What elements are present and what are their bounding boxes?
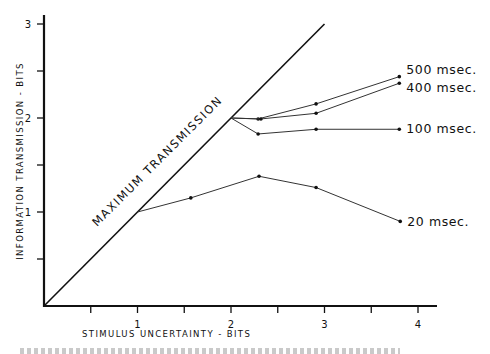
- series-label: 400 msec.: [406, 80, 476, 95]
- data-point: [259, 117, 263, 121]
- series-line: [138, 176, 401, 221]
- x-tick-label: 3: [321, 319, 327, 330]
- series-line: [231, 118, 399, 134]
- maximum-transmission-label: MAXIMUM TRANSMISSION: [89, 93, 225, 229]
- axes: 1234123STIMULUS UNCERTAINTY - BITSINFORM…: [15, 15, 437, 339]
- series-20-msec: [138, 174, 403, 223]
- data-point: [256, 132, 260, 136]
- series-400-msec: [231, 81, 401, 120]
- data-point: [314, 186, 318, 190]
- data-point: [314, 112, 318, 116]
- x-axis-title: STIMULUS UNCERTAINTY - BITS: [82, 329, 251, 339]
- data-point: [257, 174, 261, 178]
- maximum-transmission-line: [44, 24, 325, 306]
- data-point: [398, 220, 402, 224]
- series-label: 20 msec.: [407, 214, 469, 229]
- y-tick-label: 3: [25, 19, 31, 30]
- series-label: 100 msec.: [406, 121, 476, 136]
- data-point: [398, 81, 402, 85]
- series-label: 500 msec.: [406, 62, 476, 77]
- labels-group: 500 msec.400 msec.100 msec.20 msec.: [406, 62, 476, 230]
- maximum-transmission-reference: MAXIMUM TRANSMISSION: [44, 24, 325, 306]
- data-point: [398, 75, 402, 79]
- x-tick-label: 4: [415, 319, 421, 330]
- y-tick-label: 1: [25, 207, 31, 218]
- y-axis-title: INFORMATION TRANSMISSION - BITS: [15, 62, 25, 260]
- data-point: [189, 196, 193, 200]
- data-point: [314, 127, 318, 131]
- series-100-msec: [231, 118, 401, 136]
- data-point: [314, 102, 318, 106]
- cropped-figure-caption: [20, 348, 400, 354]
- y-tick-label: 2: [25, 113, 31, 124]
- data-point: [398, 127, 402, 131]
- chart: 1234123STIMULUS UNCERTAINTY - BITSINFORM…: [0, 0, 490, 354]
